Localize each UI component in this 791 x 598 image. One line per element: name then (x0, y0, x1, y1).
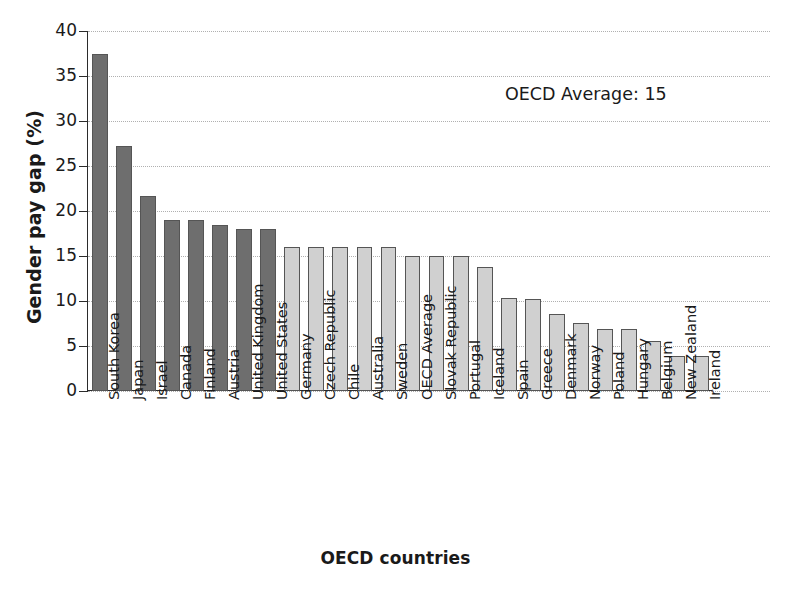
x-tick-label: Australia (370, 336, 386, 400)
y-tick-label: 25 (17, 155, 77, 175)
y-tick-label: 10 (17, 290, 77, 310)
y-tick-label: 15 (17, 245, 77, 265)
x-tick-label: Ireland (707, 350, 723, 400)
y-tick-mark (79, 121, 88, 122)
y-tick-mark (79, 256, 88, 257)
y-tick-mark (79, 301, 88, 302)
x-tick-label: Finland (202, 348, 218, 400)
x-tick-label: OECD Average (419, 294, 435, 400)
x-tick-label: Poland (611, 352, 627, 400)
y-tick-label: 5 (17, 335, 77, 355)
y-tick-mark (79, 76, 88, 77)
y-tick-mark (79, 166, 88, 167)
y-tick-label: 20 (17, 200, 77, 220)
x-tick-label: Israel (154, 360, 170, 400)
y-tick-label: 40 (17, 20, 77, 40)
x-tick-label: Canada (178, 345, 194, 400)
x-tick-label: Germany (298, 333, 314, 400)
y-tick-mark (79, 391, 88, 392)
x-tick-label: Chile (346, 364, 362, 400)
y-tick-label: 30 (17, 110, 77, 130)
x-tick-label: South Korea (106, 312, 122, 400)
y-tick-label: 0 (17, 380, 77, 400)
x-tick-label: Belgium (659, 341, 675, 400)
y-tick-mark (79, 211, 88, 212)
y-tick-mark (79, 346, 88, 347)
x-tick-label: Norway (587, 345, 603, 400)
x-tick-label: Hungary (635, 338, 651, 400)
x-tick-label: Spain (515, 359, 531, 400)
x-tick-label: Iceland (491, 348, 507, 400)
y-tick-mark (79, 31, 88, 32)
gender-pay-gap-bar-chart: Gender pay gap (%) 0510152025303540 Sout… (0, 0, 791, 598)
x-tick-label: Japan (130, 360, 146, 400)
x-tick-label: Greece (539, 348, 555, 400)
x-tick-label: United Kingdom (250, 284, 266, 400)
x-axis-title: OECD countries (0, 548, 791, 568)
x-tick-label: United States (274, 302, 290, 400)
x-tick-label: Austria (226, 349, 242, 400)
oecd-average-annotation: OECD Average: 15 (505, 84, 667, 104)
x-tick-label: Portugal (467, 340, 483, 400)
x-tick-label: Sweden (394, 343, 410, 400)
x-tick-label: New Zealand (683, 305, 699, 400)
x-tick-label: Denmark (563, 333, 579, 400)
y-tick-label: 35 (17, 65, 77, 85)
x-tick-label: Slovak Republic (443, 285, 459, 400)
x-tick-label: Czech Republic (322, 290, 338, 400)
